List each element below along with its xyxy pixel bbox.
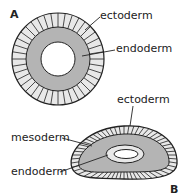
panel-b-letter: B (170, 183, 178, 195)
endoderm-label-b: endoderm (11, 165, 67, 178)
germ-layer-diagram: A ectoderm endoderm ectoderm mesoderm en… (0, 0, 184, 195)
ectoderm-pointer-b (130, 106, 133, 126)
lumen-b (114, 150, 138, 159)
panel-a: A ectoderm endoderm (10, 8, 172, 105)
panel-a-letter: A (10, 8, 19, 21)
lumen-a (41, 42, 75, 76)
ectoderm-label-b: ectoderm (117, 93, 170, 106)
ectoderm-label-a: ectoderm (100, 9, 153, 22)
panel-b: ectoderm mesoderm endoderm B (11, 93, 184, 195)
mesoderm-label-b: mesoderm (11, 131, 70, 144)
endoderm-label-a: endoderm (116, 42, 172, 55)
